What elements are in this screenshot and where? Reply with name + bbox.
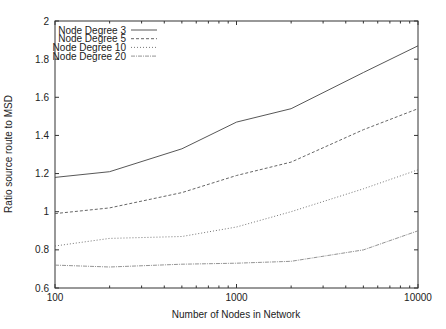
series-line-2 [55,109,418,214]
y-tick-label: 1.6 [35,92,49,103]
series-line-1 [55,46,418,178]
y-axis-title: Ratio source route to MSD [3,95,14,213]
y-tick-label: 1 [43,206,49,217]
series-line-4 [55,231,418,267]
legend-label: Node Degree 20 [53,51,127,62]
y-tick-label: 1.8 [35,54,49,65]
y-tick-label: 0.8 [35,244,49,255]
x-tick-label: 100 [47,292,64,303]
line-chart: 0.60.811.21.41.61.82100100010000 Node De… [0,0,446,329]
y-tick-label: 1.2 [35,168,49,179]
y-tick-label: 2 [43,16,49,27]
series-line-3 [55,170,418,246]
x-tick-label: 1000 [225,292,248,303]
series-lines [55,46,418,267]
y-tick-label: 1.4 [35,130,49,141]
x-tick-label: 10000 [404,292,432,303]
legend: Node Degree 3Node Degree 5Node Degree 10… [53,25,157,62]
x-axis-title: Number of Nodes in Network [172,309,301,320]
